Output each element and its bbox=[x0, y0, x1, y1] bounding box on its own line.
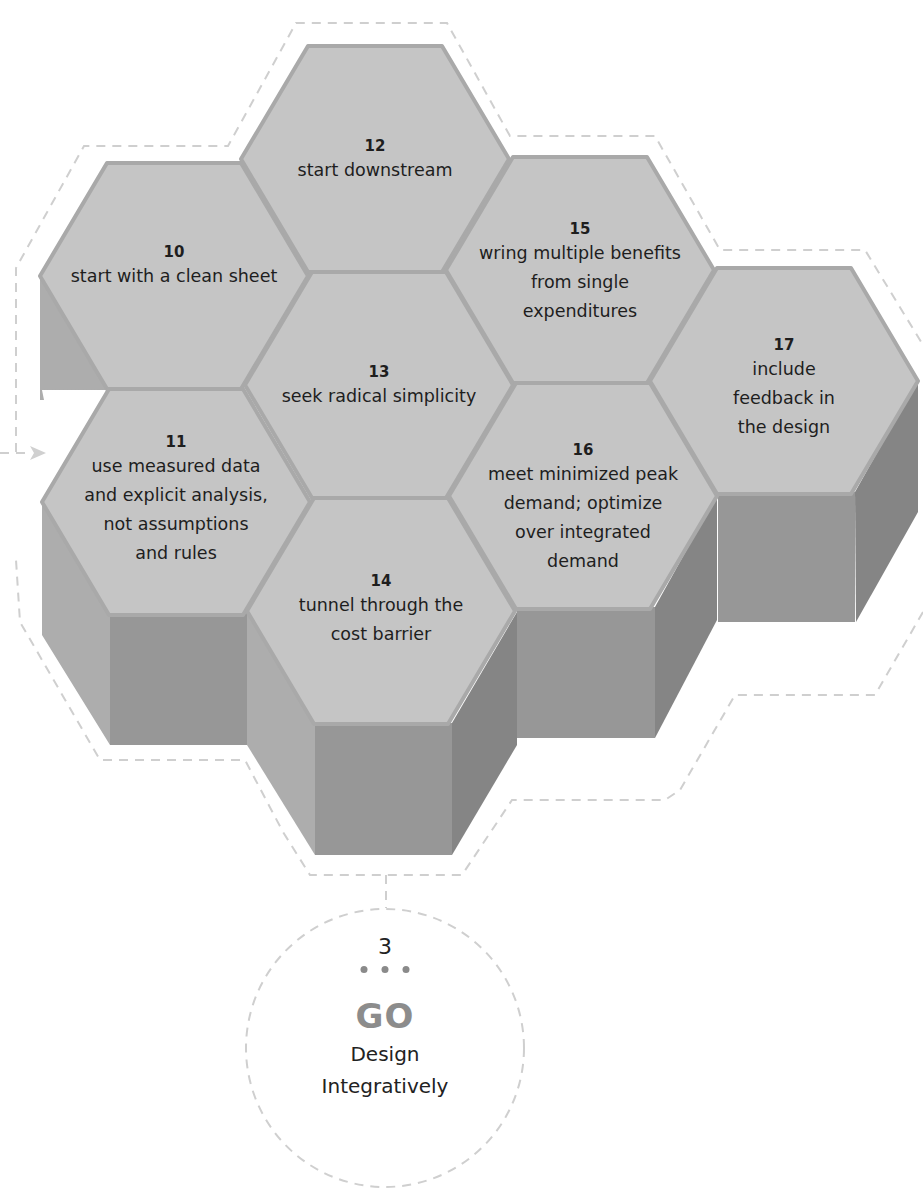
dot-icon bbox=[361, 966, 368, 973]
hex-13[interactable]: 13 seek radical simplicity bbox=[282, 362, 477, 411]
hex-text: tunnel through the cost barrier bbox=[299, 591, 463, 649]
hex-11[interactable]: 11 use measured data and explicit analys… bbox=[84, 432, 267, 568]
hex-15[interactable]: 15 wring multiple benefits from single e… bbox=[479, 219, 681, 326]
hex-text: start downstream bbox=[298, 156, 453, 185]
hex-text: start with a clean sheet bbox=[71, 262, 278, 291]
hex-number: 16 bbox=[488, 440, 678, 460]
hex-12[interactable]: 12 start downstream bbox=[298, 136, 453, 185]
hex-14[interactable]: 14 tunnel through the cost barrier bbox=[299, 571, 463, 649]
hex-number: 12 bbox=[298, 136, 453, 156]
dot-icon bbox=[403, 966, 410, 973]
step-number: 3 bbox=[378, 934, 392, 959]
hex-number: 14 bbox=[299, 571, 463, 591]
hex-17[interactable]: 17 include feedback in the design bbox=[715, 335, 854, 442]
dot-icon bbox=[382, 966, 389, 973]
hex-number: 10 bbox=[71, 242, 278, 262]
step-dots bbox=[361, 966, 410, 973]
step-title: Design Integratively bbox=[322, 1038, 449, 1102]
hex-number: 15 bbox=[479, 219, 681, 239]
hex-10[interactable]: 10 start with a clean sheet bbox=[71, 242, 278, 291]
hex-text: meet minimized peak demand; optimize ove… bbox=[488, 460, 678, 576]
hex-text: use measured data and explicit analysis,… bbox=[84, 452, 267, 568]
hex-number: 13 bbox=[282, 362, 477, 382]
hex-number: 17 bbox=[715, 335, 854, 355]
step-keyword: GO bbox=[356, 996, 415, 1036]
incoming-arrow-icon bbox=[30, 446, 46, 460]
hex-text: include feedback in the design bbox=[715, 355, 854, 442]
hex-text: seek radical simplicity bbox=[282, 382, 477, 411]
hex-16[interactable]: 16 meet minimized peak demand; optimize … bbox=[488, 440, 678, 576]
hex-text: wring multiple benefits from single expe… bbox=[479, 239, 681, 326]
hex-number: 11 bbox=[84, 432, 267, 452]
